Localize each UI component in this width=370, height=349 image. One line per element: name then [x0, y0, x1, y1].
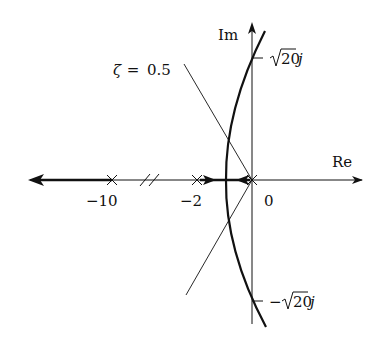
label-pos-sqrt20j: 20 j	[270, 49, 303, 68]
svg-text:ζ: ζ	[113, 61, 122, 79]
locus-real-left	[28, 174, 112, 186]
imag-axis-label: Im	[218, 26, 238, 44]
svg-text:=: =	[122, 61, 144, 79]
pole-label-minus10: −10	[86, 192, 118, 210]
real-axis-label: Re	[332, 153, 352, 171]
svg-text:−: −	[269, 293, 282, 311]
root-locus-diagram: Im Re −10 −2 0 20 j − 20 j ζ = 0.5	[0, 0, 370, 349]
svg-text:0.5: 0.5	[147, 61, 171, 79]
label-neg-sqrt20j: − 20 j	[269, 292, 315, 311]
pole-label-zero: 0	[264, 192, 274, 210]
damping-label: ζ = 0.5	[113, 61, 171, 79]
pole-label-minus2: −2	[180, 192, 202, 210]
